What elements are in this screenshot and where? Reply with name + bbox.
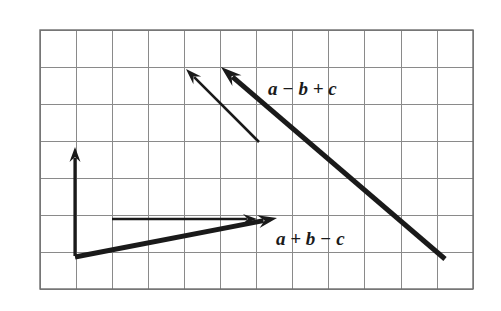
thin-diagonal-arrow	[186, 69, 259, 142]
label-a-minus-b-plus-c: a − b + c	[268, 78, 337, 99]
vertical-component-arrow	[70, 147, 81, 256]
vector-diagram-canvas: a − b + ca + b − c	[0, 0, 501, 311]
thin-diagonal-arrow-shaft	[194, 77, 259, 142]
resultant-arrow-a-plus-b-minus-c	[75, 215, 277, 257]
vectors-layer	[70, 67, 446, 259]
vector-diagram-figure: a − b + ca + b − c	[0, 0, 501, 311]
label-a-plus-b-minus-c: a + b − c	[276, 228, 345, 249]
